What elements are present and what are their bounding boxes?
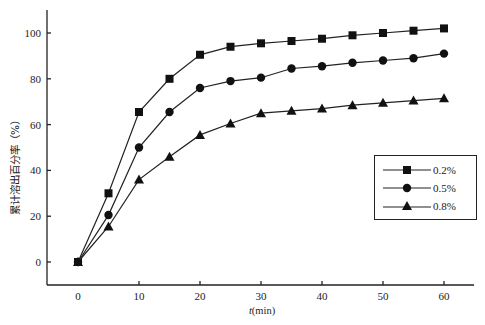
circle-marker <box>287 64 295 72</box>
legend-label: 0.8% <box>433 200 456 212</box>
square-marker <box>318 35 326 43</box>
y-tick-label: 60 <box>30 119 42 131</box>
x-tick-label: 40 <box>317 290 329 302</box>
y-tick-label: 40 <box>30 164 42 176</box>
square-marker <box>440 24 448 32</box>
y-tick-label: 20 <box>30 210 42 222</box>
square-marker <box>196 51 204 59</box>
circle-marker <box>409 54 417 62</box>
square-marker <box>257 39 265 47</box>
legend-label: 0.5% <box>433 182 456 194</box>
x-tick-label: 10 <box>134 290 146 302</box>
x-tick-label: 50 <box>378 290 390 302</box>
circle-marker <box>196 84 204 92</box>
square-marker <box>166 75 174 83</box>
circle-marker <box>104 211 112 219</box>
x-axis-label-unit: (min) <box>252 305 275 316</box>
y-tick-label: 100 <box>25 27 42 39</box>
circle-marker <box>257 73 265 81</box>
circle-icon <box>383 180 431 196</box>
series-line <box>78 28 444 262</box>
square-marker <box>410 27 418 35</box>
square-marker <box>135 108 143 116</box>
triangle-marker <box>104 222 114 231</box>
triangle-marker <box>195 130 205 139</box>
triangle-marker <box>226 118 236 127</box>
square-icon <box>383 162 431 178</box>
circle-marker <box>440 49 448 57</box>
x-tick-label: 20 <box>195 290 207 302</box>
triangle-marker <box>134 175 144 184</box>
square-marker <box>105 189 113 197</box>
x-axis-label: t(min) <box>249 305 275 316</box>
y-tick-label: 80 <box>30 73 42 85</box>
legend-item-0: 0.2% <box>375 162 476 180</box>
triangle-marker <box>165 152 175 161</box>
legend-item-2: 0.8% <box>375 198 476 216</box>
circle-marker <box>318 62 326 70</box>
triangle-marker <box>439 93 449 102</box>
square-marker <box>227 43 235 51</box>
x-tick-label: 30 <box>256 290 268 302</box>
x-tick-label: 60 <box>439 290 451 302</box>
legend-item-1: 0.5% <box>375 180 476 198</box>
circle-marker <box>165 108 173 116</box>
y-axis-label-text: 累计溶出百分率（%） <box>7 115 22 215</box>
legend-label: 0.2% <box>433 164 456 176</box>
triangle-icon <box>383 198 431 214</box>
square-marker <box>379 29 387 37</box>
series-0.2% <box>74 24 448 266</box>
square-marker <box>349 31 357 39</box>
square-marker <box>288 37 296 45</box>
x-tick-label: 0 <box>75 290 81 302</box>
circle-marker <box>226 77 234 85</box>
y-tick-label: 0 <box>36 256 42 268</box>
circle-marker <box>348 59 356 67</box>
circle-marker <box>135 143 143 151</box>
legend: 0.2% 0.5% 0.8% <box>374 155 477 220</box>
series-group <box>73 24 449 266</box>
circle-marker <box>379 56 387 64</box>
